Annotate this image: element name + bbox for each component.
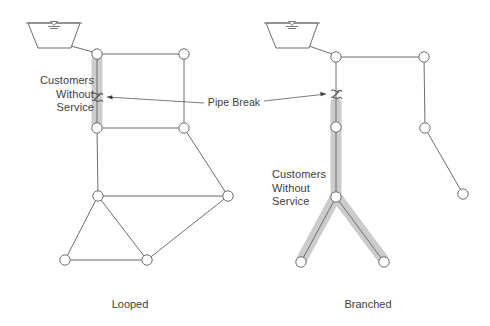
junction-node-icon xyxy=(179,49,189,59)
junction-node-icon xyxy=(92,49,102,59)
junction-node-icon xyxy=(458,189,468,199)
pipe-break-label: Pipe Break xyxy=(205,96,263,110)
junction-node-icon xyxy=(60,255,70,265)
junction-node-icon xyxy=(331,52,341,62)
junction-node-icon xyxy=(419,52,429,62)
pipe-break-squiggle-icon-right xyxy=(332,90,342,98)
junction-node-icon xyxy=(379,257,389,267)
branched-network-group xyxy=(264,22,468,268)
junction-node-icon xyxy=(142,255,152,265)
looped-reservoir-icon xyxy=(26,22,82,49)
junction-node-icon xyxy=(93,191,103,201)
junction-node-icon xyxy=(179,123,189,133)
junction-node-icon xyxy=(296,257,306,267)
junction-node-icon xyxy=(331,122,341,132)
customers-without-service-label-left: Customers Without Service xyxy=(18,74,94,115)
diagram-root: Customers Without Service Customers With… xyxy=(0,0,490,326)
looped-network-group xyxy=(26,22,233,266)
branched-pipes xyxy=(301,46,463,262)
junction-node-icon xyxy=(420,123,430,133)
caption-branched: Branched xyxy=(330,298,406,310)
junction-node-icon xyxy=(331,192,341,202)
branched-reservoir-icon xyxy=(264,22,320,49)
junction-node-icon xyxy=(92,123,102,133)
caption-looped: Looped xyxy=(95,298,165,310)
branched-nodes xyxy=(296,52,468,267)
junction-node-icon xyxy=(223,191,233,201)
customers-without-service-label-right: Customers Without Service xyxy=(272,168,332,209)
network-diagram-canvas xyxy=(0,0,490,326)
